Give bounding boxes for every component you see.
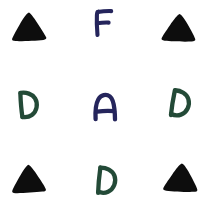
triangle-icon	[1, 153, 57, 203]
grid-cell-r3c1	[1, 153, 57, 203]
triangle-icon	[153, 152, 209, 203]
letter-d-glyph	[152, 76, 208, 132]
grid-cell-r1c3	[151, 2, 207, 58]
letter-d-glyph	[78, 153, 134, 203]
letter-d-glyph	[0, 77, 56, 133]
grid-cell-r2c1	[0, 77, 56, 133]
grid-cell-r3c2	[78, 153, 134, 203]
grid-cell-r1c2	[76, 0, 132, 51]
triangle-icon	[151, 2, 207, 58]
triangle-icon	[1, 1, 57, 57]
letter-a-glyph	[78, 79, 134, 135]
grid-cell-r2c2	[78, 79, 134, 135]
symbol-grid-canvas	[0, 0, 211, 203]
letter-f-glyph	[76, 0, 132, 51]
grid-cell-r2c3	[152, 76, 208, 132]
grid-cell-r1c1	[1, 1, 57, 57]
grid-cell-r3c3	[153, 152, 209, 203]
